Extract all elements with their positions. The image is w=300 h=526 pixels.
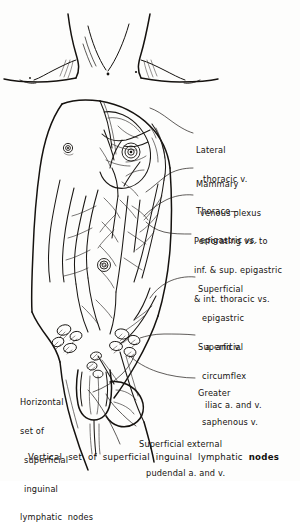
label-line: pudendal a. and v.	[139, 469, 225, 479]
caption-bold-word: nodes	[249, 452, 279, 462]
label-line: lymphatic nodes	[20, 513, 93, 523]
label-line: Superficial external	[139, 440, 225, 450]
umbilicus	[98, 259, 111, 272]
perforating-veins	[98, 168, 144, 248]
label-line: Horizontal	[20, 398, 93, 408]
label-line: Lateral	[196, 146, 247, 156]
neck-shoulder-sketch	[4, 14, 218, 83]
label-line: epigastric	[198, 314, 244, 324]
label-line: Superficial	[198, 285, 244, 295]
abdominal-venous-network	[49, 180, 149, 292]
label-line: inguinal	[20, 485, 93, 495]
label-line: Superficial	[198, 343, 262, 353]
inguinal-lymph-nodes	[51, 323, 141, 378]
vertical-inguinal-nodes-caption: Vertical set of superficial inguinal lym…	[28, 452, 279, 462]
caption-text: Vertical set of superficial inguinal lym…	[28, 452, 249, 462]
label-line: Greater	[198, 389, 258, 399]
label-line: Perforating vs. to	[194, 237, 282, 247]
label-line: Thoraco—	[196, 207, 257, 217]
superficial-epigastric-vessels	[76, 278, 116, 334]
label-line: set of	[20, 427, 93, 437]
